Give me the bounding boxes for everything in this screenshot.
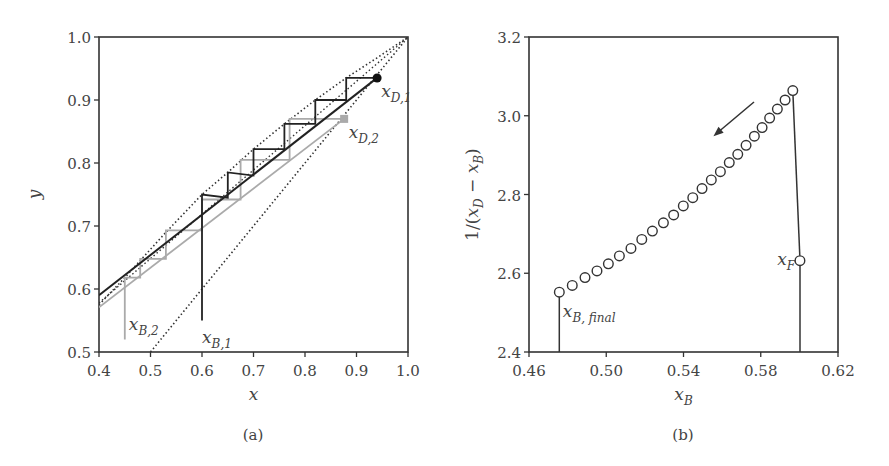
x-tick-label: 0.4: [87, 362, 111, 380]
y-tick-label: 0.6: [67, 281, 91, 299]
data-point: [716, 167, 726, 177]
operating-line-2: [99, 119, 344, 307]
y-axis-label: y: [24, 189, 44, 200]
x-tick-label: 0.9: [345, 362, 369, 380]
y-tick-label: 0.8: [67, 155, 91, 173]
data-point: [750, 131, 760, 141]
data-point: [669, 210, 679, 220]
data-point: [724, 158, 734, 168]
data-point: [757, 123, 767, 133]
x-tick-label: 0.46: [512, 362, 545, 380]
data-point: [604, 259, 614, 269]
y-tick-label: 3.2: [497, 29, 521, 47]
x-axis-label: xB: [674, 384, 693, 408]
line-connect: [793, 91, 800, 261]
y-axis-label: 1/(xD − xB): [462, 148, 486, 241]
annotation-xb-final: xB, final: [563, 301, 616, 325]
data-point: [626, 244, 636, 254]
data-point: [688, 193, 698, 203]
data-point: [679, 201, 689, 211]
data-point: [659, 218, 669, 228]
y-tick-label: 3.0: [497, 108, 521, 126]
annotation-d2: xD,2: [349, 122, 379, 146]
data-point: [592, 266, 602, 276]
xf-marker: [795, 256, 805, 266]
xd2-marker: [340, 115, 348, 123]
y-tick-label: 2.8: [497, 187, 521, 205]
annotation-b1: xB,1: [202, 327, 232, 351]
data-point: [707, 175, 717, 185]
x-tick-label: 0.5: [139, 362, 163, 380]
data-point: [555, 287, 565, 297]
x-tick-label: 0.62: [821, 362, 854, 380]
panel-b-chart: 0.460.500.540.580.622.42.62.83.03.2xB, f…: [462, 29, 855, 408]
data-point: [733, 150, 743, 160]
data-point: [580, 273, 590, 283]
panel-a-frame: [99, 37, 408, 352]
y-tick-label: 0.5: [67, 344, 91, 362]
data-point: [697, 184, 707, 194]
stages-2: [125, 119, 344, 340]
annotation-d1: xD,1: [381, 81, 411, 105]
panel-a-chart: 0.40.50.60.70.80.91.00.50.60.70.80.91.0x…: [24, 29, 420, 404]
data-point: [773, 104, 783, 114]
caption-a: (a): [243, 426, 264, 444]
figure: 0.40.50.60.70.80.91.00.50.60.70.80.91.0x…: [0, 0, 889, 466]
x-tick-label: 0.58: [744, 362, 777, 380]
y-tick-label: 0.9: [67, 92, 91, 110]
data-point: [788, 86, 798, 96]
y-tick-label: 0.7: [67, 218, 91, 236]
y-tick-label: 1.0: [67, 29, 91, 47]
panel-b-frame: [529, 37, 838, 352]
data-point: [741, 140, 751, 150]
x-tick-label: 0.6: [190, 362, 214, 380]
data-point: [765, 113, 775, 123]
annotation-b2: xB,2: [129, 314, 159, 338]
x-tick-label: 0.50: [590, 362, 623, 380]
x-axis-label: x: [249, 384, 259, 404]
direction-arrow-shaft: [717, 102, 754, 133]
x-tick-label: 0.7: [242, 362, 266, 380]
data-point: [615, 251, 625, 261]
y-tick-label: 2.6: [497, 265, 521, 283]
caption-b: (b): [672, 426, 693, 444]
x-tick-label: 0.8: [293, 362, 317, 380]
x-tick-label: 1.0: [396, 362, 420, 380]
operating-line-1: [99, 78, 377, 295]
panel-a-plot-area: [99, 37, 408, 352]
x-tick-label: 0.54: [667, 362, 700, 380]
data-point: [648, 226, 658, 236]
y-tick-label: 2.4: [497, 344, 521, 362]
data-point: [567, 281, 577, 291]
data-point: [637, 235, 647, 245]
data-point: [780, 95, 790, 105]
annotation-xf: xF: [777, 249, 796, 273]
